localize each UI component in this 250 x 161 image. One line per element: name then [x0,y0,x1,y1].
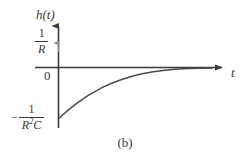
denominator-tail: C [33,118,41,132]
response-curve [59,68,212,118]
minus-sign: − [11,111,19,123]
fraction-denominator: R [35,43,48,56]
y-tick-label-minimum: − 1 R2C [11,103,44,131]
fraction-numerator: 1 [35,27,48,40]
y-axis-label: h(t) [36,8,55,21]
fraction-one-over-r: 1 R [35,27,48,55]
fraction-denominator: R2C [19,119,44,132]
origin-label: 0 [44,69,51,82]
x-axis-label: t [231,66,235,79]
fraction-numerator: 1 [19,103,44,116]
figure-container: h(t) t 0 1 R − 1 R2C (b) [0,0,250,161]
figure-caption: (b) [0,136,250,149]
y-tick-label-peak: 1 R [35,27,48,55]
fraction-one-over-r2c: 1 R2C [19,103,44,131]
